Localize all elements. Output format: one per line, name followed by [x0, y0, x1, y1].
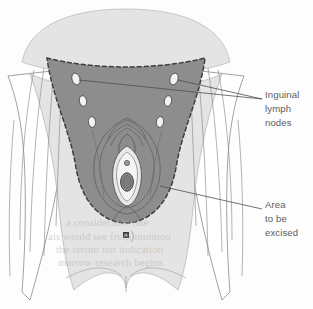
vulvectomy-diagram-svg: eridae rotas to withstand more mallest e…	[0, 0, 313, 309]
label-line: excised	[265, 227, 298, 238]
label-inguinal-lymph-nodes: Inguinal lymph nodes	[265, 89, 299, 128]
urethral-meatus	[124, 160, 129, 165]
bleed-line: ais would see from ninimou	[48, 230, 171, 242]
label-line: lymph	[265, 103, 291, 114]
label-line: Inguinal	[265, 89, 299, 100]
label-line: Area	[265, 199, 286, 210]
bleed-line: the serum nor indication	[56, 243, 164, 255]
introitus-inner	[123, 175, 131, 188]
label-line: to be	[265, 213, 287, 224]
label-area-to-be-excised: Area to be excised	[265, 199, 298, 238]
bleed-line: a considerable rate	[66, 216, 149, 228]
label-line: nodes	[265, 117, 292, 128]
anatomical-figure: eridae rotas to withstand more mallest e…	[0, 0, 313, 309]
callout-labels: Inguinal lymph nodes Area to be excised	[265, 89, 299, 238]
bleed-line: marrow research begins	[58, 256, 163, 268]
